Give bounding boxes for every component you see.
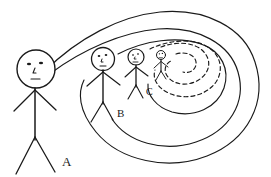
figure-d-arm-left [154,62,161,69]
figure-b-eye-right [105,54,108,56]
figure-d-leg-left [156,71,161,80]
figure-c-leg-left [128,85,136,99]
figure-a-label: A [62,154,72,169]
figure-c-eye-left [132,54,134,56]
figure-a-leg-left [16,137,35,174]
figure-a-arm-right [35,90,56,110]
figure-c-leg-right [136,85,143,98]
figure-c-eye-right [137,53,139,55]
stick-figure-spiral-diagram: A B C [0,0,271,177]
stick-figure-c: C [125,49,153,99]
stick-figure-b: B [87,48,124,123]
figure-a-head [17,50,55,88]
figure-b-arm-left [87,72,103,86]
spiral-dashed-turn-2 [161,43,209,84]
figure-a-leg-right [35,137,55,172]
figure-d-eye-right [162,53,163,54]
figure-a-eye-left [27,63,31,65]
stick-figure-a: A [14,50,72,174]
figure-b-leg-left [91,102,103,122]
figure-b-eye-left [98,55,101,57]
figure-c-head [128,49,144,65]
diagram-canvas: A B C [0,0,271,177]
figure-b-head [92,48,115,71]
figure-c-arm-left [125,67,136,77]
figure-c-label: C [146,86,153,97]
figure-b-leg-right [103,102,113,120]
stick-figure-d [154,51,168,81]
spiral-dashed-turn-3 [176,53,196,72]
figure-d-eye-left [159,53,160,54]
figure-a-eye-right [39,62,43,64]
figure-b-label: B [117,107,124,119]
figure-a-arm-left [14,90,35,111]
figure-b-arm-right [103,72,120,85]
figure-c-arm-right [136,67,148,76]
figure-d-leg-right [161,71,166,79]
